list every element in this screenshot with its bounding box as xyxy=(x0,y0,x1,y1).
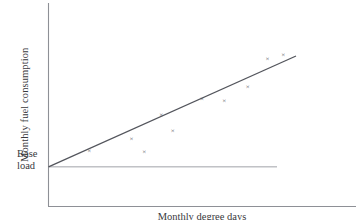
base-load-annotation: Base load xyxy=(17,148,47,171)
data-point: × xyxy=(222,97,226,105)
base-load-line2: load xyxy=(17,160,47,172)
data-point: × xyxy=(246,83,250,91)
data-point: × xyxy=(200,95,204,103)
data-point: × xyxy=(142,148,146,156)
base-load-line1: Base xyxy=(17,148,47,160)
data-point: × xyxy=(87,147,91,155)
data-point: × xyxy=(129,135,133,143)
fitted-trend-line xyxy=(49,56,297,167)
data-point-markers: ×××××××××× xyxy=(87,51,285,156)
data-point: × xyxy=(159,111,163,119)
x-axis-label: Monthly degree days xyxy=(48,211,356,220)
plot-area: ×××××××××× xyxy=(0,0,356,220)
data-point: × xyxy=(171,127,175,135)
y-axis-label: Monthly fuel consumption xyxy=(19,48,30,162)
data-point: × xyxy=(266,55,270,63)
energy-signature-chart: ×××××××××× Monthly fuel consumption Base… xyxy=(0,0,356,220)
data-point: × xyxy=(281,51,285,59)
